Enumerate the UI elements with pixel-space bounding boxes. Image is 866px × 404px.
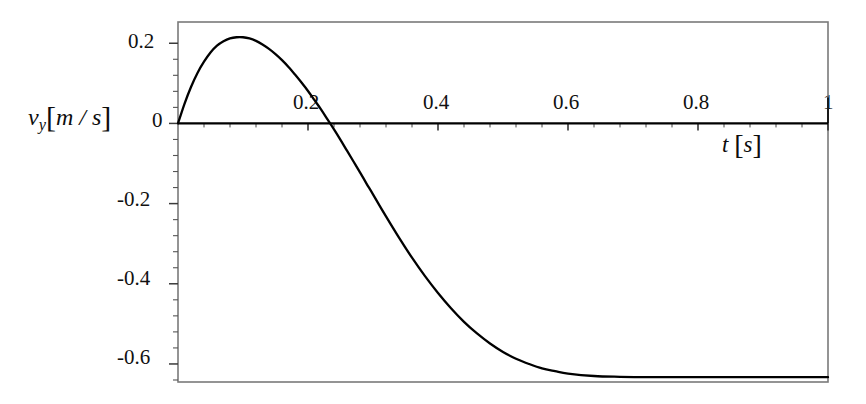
data-curve [178,37,828,377]
plot-frame [178,22,828,382]
velocity-time-chart-figure: vy[m / s] t [s] 0.2 0 -0.2 -0.4 -0.6 0.2… [0,0,866,404]
plot-area [0,0,866,404]
x-axis-ticks [204,97,828,130]
y-axis-ticks [169,43,178,380]
